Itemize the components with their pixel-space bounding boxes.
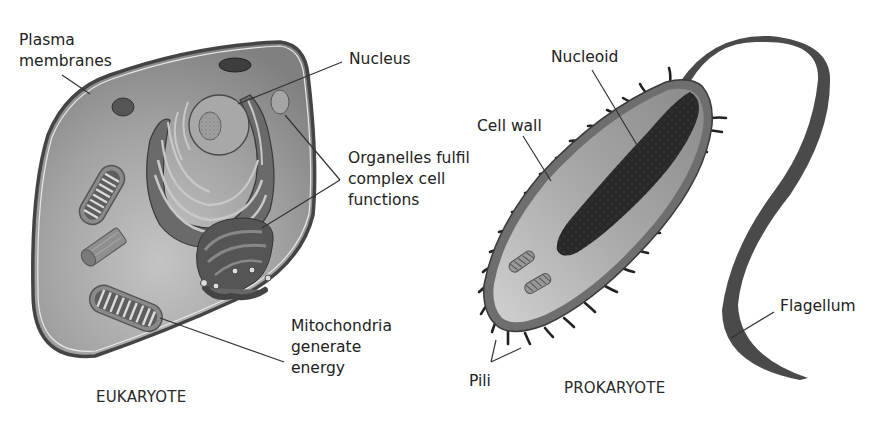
leader-pili-2	[491, 348, 521, 362]
nucleus	[189, 95, 249, 155]
label-plasma-membranes: Plasma membranes	[19, 31, 112, 70]
prokaryote-cell	[479, 36, 830, 380]
label-flagellum: Flagellum	[780, 297, 856, 315]
label-mitochondria: Mitochondria generate energy	[291, 317, 397, 377]
label-cell-wall: Cell wall	[477, 117, 542, 135]
lysosome-icon	[112, 98, 134, 116]
leader-cell-wall	[523, 136, 551, 181]
title-eukaryote: EUKARYOTE	[96, 388, 186, 406]
title-prokaryote: PROKARYOTE	[564, 379, 665, 397]
leader-mitochondria	[160, 318, 284, 362]
label-pili: Pili	[469, 372, 491, 390]
vesicle-icon	[271, 90, 289, 114]
label-nucleoid: Nucleoid	[551, 48, 618, 66]
lysosome-icon	[219, 58, 251, 72]
leader-pili-1	[491, 340, 496, 362]
cell-comparison-diagram: Plasma membranes Nucleus Organelles fulf…	[0, 0, 880, 429]
eukaryote-cell	[33, 42, 315, 356]
label-organelles: Organelles fulfil complex cell functions	[348, 149, 475, 209]
leader-plasma-membrane	[62, 75, 90, 94]
label-nucleus: Nucleus	[349, 50, 411, 68]
